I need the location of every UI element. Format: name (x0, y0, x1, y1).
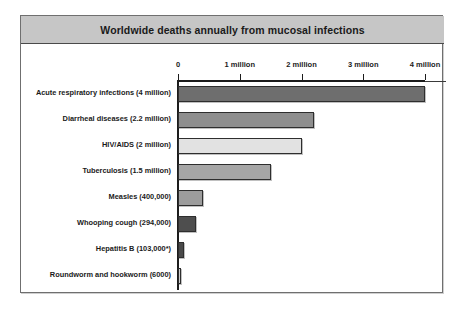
bar-row: Measles (400,000) (21, 188, 442, 214)
bar (178, 242, 184, 258)
bar (178, 268, 181, 284)
category-label: HIV/AIDS (2 million) (102, 140, 171, 149)
x-axis-tick (302, 74, 303, 80)
x-axis-tick-label: 1 million (225, 60, 255, 69)
x-axis-extension (425, 81, 446, 82)
x-axis-tick (363, 74, 364, 80)
x-axis-tick-label: 4 million (410, 60, 440, 69)
bar (178, 190, 203, 206)
bar-row: Diarrheal diseases (2.2 million) (21, 110, 442, 136)
bar-row: HIV/AIDS (2 million) (21, 136, 442, 162)
bar (178, 216, 196, 232)
bar-row: Roundworm and hookworm (6000) (21, 266, 442, 292)
category-label: Whooping cough (294,000) (77, 218, 171, 227)
chart-frame: Worldwide deaths annually from mucosal i… (20, 15, 443, 293)
bar (178, 86, 425, 102)
category-label: Measles (400,000) (109, 192, 171, 201)
chart-title-banner: Worldwide deaths annually from mucosal i… (21, 16, 444, 44)
x-axis-tick-label: 3 million (348, 60, 378, 69)
category-label: Hepatitis B (103,000*) (96, 244, 171, 253)
x-axis-tick (240, 74, 241, 80)
plot-area: 01 million2 million3 million4 million Ac… (21, 44, 442, 292)
bar-row: Hepatitis B (103,000*) (21, 240, 442, 266)
category-label: Tuberculosis (1.5 million) (82, 166, 171, 175)
bar (178, 112, 314, 128)
page-title: Worldwide deaths annually from mucosal i… (100, 24, 364, 36)
bar-row: Acute respiratory infections (4 million) (21, 84, 442, 110)
bar (178, 164, 271, 180)
x-axis-tick (425, 74, 426, 80)
bar-row: Tuberculosis (1.5 million) (21, 162, 442, 188)
bar (178, 138, 302, 154)
x-axis-tick (178, 74, 179, 80)
category-label: Acute respiratory infections (4 million) (36, 88, 171, 97)
x-axis-line (178, 80, 425, 82)
category-label: Diarrheal diseases (2.2 million) (63, 114, 171, 123)
x-axis-tick-label: 2 million (286, 60, 316, 69)
x-axis-tick-label: 0 (176, 60, 180, 69)
category-label: Roundworm and hookworm (6000) (50, 270, 171, 279)
bar-row: Whooping cough (294,000) (21, 214, 442, 240)
